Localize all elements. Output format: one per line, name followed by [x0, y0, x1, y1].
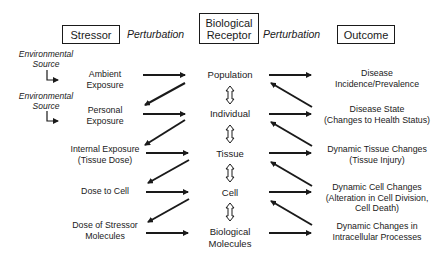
- arrow-layer: [0, 0, 433, 255]
- arrow-diagonal-up-left-icon: [271, 122, 312, 146]
- arrow-diagonal-down-left-icon: [145, 120, 185, 145]
- double-arrow-vertical-icon: [226, 203, 234, 221]
- double-arrow-vertical-icon: [226, 86, 234, 104]
- source-connector-icon-1: [47, 70, 58, 80]
- double-arrow-vertical-icon: [226, 125, 234, 143]
- arrow-diagonal-down-left-icon: [145, 83, 185, 105]
- arrow-diagonal-down-left-icon: [148, 160, 189, 183]
- arrow-diagonal-down-left-icon: [148, 199, 189, 222]
- arrow-diagonal-up-left-icon: [271, 83, 312, 107]
- arrow-diagonal-up-left-icon: [271, 201, 312, 225]
- double-arrow-vertical-icon: [226, 164, 234, 182]
- source-connector-icon-2: [47, 111, 58, 121]
- arrow-diagonal-up-left-icon: [271, 162, 312, 186]
